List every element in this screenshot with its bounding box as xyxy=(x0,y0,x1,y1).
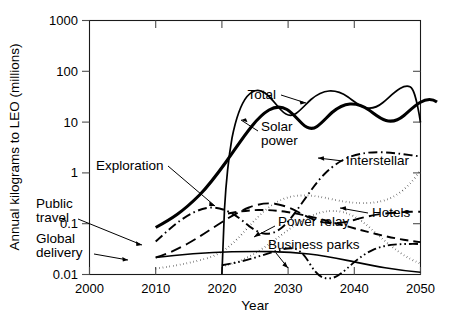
y-axis-title: Annual kilograms to LEO (millions) xyxy=(7,43,22,250)
leader-arrow-public-travel xyxy=(136,241,142,246)
label-public-travel-line2: travel xyxy=(36,210,69,225)
y-tick-label-0.01: 0.01 xyxy=(53,267,78,282)
y-tick-label-10: 10 xyxy=(64,115,78,130)
label-power-relay: Power relay xyxy=(278,214,350,229)
leader-public-travel xyxy=(78,219,142,245)
line-chart: 1000 100 10 1 0.1 0.01 2000 2010 2020 20… xyxy=(0,0,450,319)
leader-arrow-exploration xyxy=(209,201,215,206)
x-axis-title: Year xyxy=(241,298,269,313)
leader-arrow-power-relay xyxy=(254,232,261,237)
y-tick-label-1: 1 xyxy=(71,165,78,180)
label-exploration: Exploration xyxy=(96,158,164,173)
label-hotels: Hotels xyxy=(372,205,411,220)
x-tick-label-2040: 2040 xyxy=(340,281,369,296)
x-tick-label-2050: 2050 xyxy=(406,281,435,296)
label-public-travel-line1: Public xyxy=(36,196,73,211)
y-tick-marks xyxy=(82,21,90,275)
label-solar-power-line2: power xyxy=(261,133,298,148)
y-tick-label-1000: 1000 xyxy=(49,13,78,28)
x-tick-label-2000: 2000 xyxy=(75,281,104,296)
label-total: Total xyxy=(247,87,276,102)
x-tick-label-2020: 2020 xyxy=(207,281,236,296)
label-solar-power-line1: Solar xyxy=(261,119,293,134)
label-global-delivery-line1: Global xyxy=(36,231,75,246)
x-tick-label-2010: 2010 xyxy=(141,281,170,296)
y-tick-label-100: 100 xyxy=(56,64,78,79)
label-interstellar: Interstellar xyxy=(346,153,410,168)
label-business-parks: Business parks xyxy=(268,237,360,252)
x-tick-label-2030: 2030 xyxy=(274,281,303,296)
label-global-delivery-line2: delivery xyxy=(36,245,83,260)
chart-figure: 1000 100 10 1 0.1 0.01 2000 2010 2020 20… xyxy=(0,0,450,319)
